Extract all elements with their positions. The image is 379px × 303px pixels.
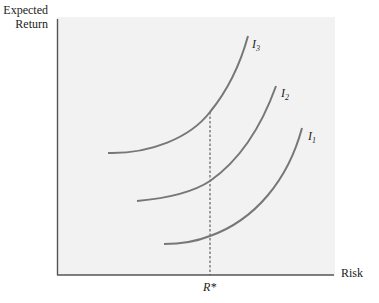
plot-area: [57, 17, 335, 275]
indifference-curves-diagram: I3 I2 I1 Risk R*: [0, 0, 379, 303]
x-axis-label: Risk: [341, 266, 363, 280]
r-star-label: R*: [202, 280, 216, 294]
